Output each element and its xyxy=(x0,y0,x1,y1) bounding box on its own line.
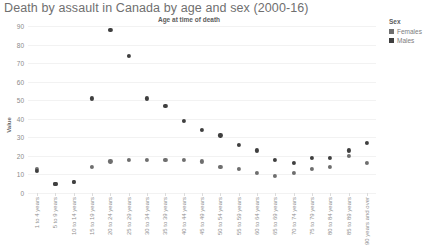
legend-swatch-icon xyxy=(389,38,394,43)
x-tick-label: 20 to 24 years xyxy=(107,197,113,235)
x-tick-label: 55 to 59 years xyxy=(236,197,242,235)
data-point[interactable] xyxy=(365,161,369,165)
chart-title: Death by assault in Canada by age and se… xyxy=(4,1,309,15)
data-point[interactable] xyxy=(108,159,112,163)
data-point[interactable] xyxy=(328,165,332,169)
x-tick-label: 15 to 19 years xyxy=(89,197,95,235)
x-tick-mark xyxy=(349,193,350,196)
x-tick-mark xyxy=(220,193,221,196)
gridline xyxy=(28,137,376,138)
x-tick-label: 45 to 49 years xyxy=(199,197,205,235)
data-point[interactable] xyxy=(291,161,295,165)
data-point[interactable] xyxy=(163,158,167,162)
data-point[interactable] xyxy=(200,128,204,132)
legend-label: Females xyxy=(397,28,422,35)
data-point[interactable] xyxy=(310,167,314,171)
x-tick-label: 75 to 79 years xyxy=(309,197,315,235)
x-tick-label: 80 to 84 years xyxy=(327,197,333,235)
data-point[interactable] xyxy=(273,158,277,162)
y-tick-label: 80 xyxy=(17,41,24,48)
gridline xyxy=(28,82,376,83)
x-tick-mark xyxy=(165,193,166,196)
x-tick-mark xyxy=(110,193,111,196)
data-point[interactable] xyxy=(273,174,277,178)
x-tick-mark xyxy=(239,193,240,196)
data-point[interactable] xyxy=(90,165,94,169)
x-tick-label: 85 to 89 years xyxy=(346,197,352,235)
x-tick-mark xyxy=(257,193,258,196)
x-tick-label: 40 to 44 years xyxy=(181,197,187,235)
data-point[interactable] xyxy=(182,119,186,123)
x-tick-label: 60 to 64 years xyxy=(254,197,260,235)
data-point[interactable] xyxy=(72,180,76,184)
y-tick-label: 10 xyxy=(17,171,24,178)
plot-area: 0102030405060708090 xyxy=(28,26,376,193)
data-point[interactable] xyxy=(237,143,241,147)
gridline xyxy=(28,156,376,157)
data-point[interactable] xyxy=(35,169,39,173)
x-tick-mark xyxy=(312,193,313,196)
data-point[interactable] xyxy=(310,156,314,160)
data-point[interactable] xyxy=(182,158,186,162)
legend-swatch-icon xyxy=(389,29,394,34)
gridline xyxy=(28,45,376,46)
y-tick-label: 70 xyxy=(17,60,24,67)
y-tick-label: 40 xyxy=(17,115,24,122)
legend-label: Males xyxy=(397,37,414,44)
x-tick-mark xyxy=(55,193,56,196)
chart-subtitle: Age at time of death xyxy=(28,16,350,23)
gridline xyxy=(28,63,376,64)
data-point[interactable] xyxy=(346,148,350,152)
legend-item-females[interactable]: Females xyxy=(389,28,430,35)
x-tick-mark xyxy=(92,193,93,196)
x-tick-label: 70 to 74 years xyxy=(291,197,297,235)
x-tick-mark xyxy=(275,193,276,196)
data-point[interactable] xyxy=(145,158,149,162)
data-point[interactable] xyxy=(237,167,241,171)
x-tick-label: 50 to 54 years xyxy=(217,197,223,235)
x-tick-label: 90 years and over xyxy=(364,197,370,245)
x-tick-mark xyxy=(294,193,295,196)
x-tick-mark xyxy=(129,193,130,196)
x-tick-label: 35 to 39 years xyxy=(162,197,168,235)
x-tick-label: 65 to 69 years xyxy=(272,197,278,235)
data-point[interactable] xyxy=(127,54,131,58)
x-tick-label: 25 to 29 years xyxy=(126,197,132,235)
x-tick-mark xyxy=(367,193,368,196)
y-tick-label: 90 xyxy=(17,23,24,30)
chart-container: Death by assault in Canada by age and se… xyxy=(0,0,430,250)
x-tick-mark xyxy=(184,193,185,196)
gridline xyxy=(28,26,376,27)
data-point[interactable] xyxy=(127,158,131,162)
x-tick-mark xyxy=(147,193,148,196)
y-tick-label: 50 xyxy=(17,97,24,104)
data-point[interactable] xyxy=(163,104,167,108)
y-tick-label: 60 xyxy=(17,78,24,85)
x-tick-label: 1 to 4 years xyxy=(34,197,40,228)
gridline xyxy=(28,174,376,175)
data-point[interactable] xyxy=(255,148,259,152)
x-tick-label: 30 to 34 years xyxy=(144,197,150,235)
y-tick-label: 0 xyxy=(20,190,24,197)
data-point[interactable] xyxy=(365,141,369,145)
x-tick-mark xyxy=(330,193,331,196)
gridline xyxy=(28,100,376,101)
x-tick-mark xyxy=(74,193,75,196)
data-point[interactable] xyxy=(53,182,57,186)
legend-item-males[interactable]: Males xyxy=(389,37,430,44)
data-point[interactable] xyxy=(200,159,204,163)
x-tick-mark xyxy=(202,193,203,196)
data-point[interactable] xyxy=(328,156,332,160)
y-axis-title: Value xyxy=(6,117,12,133)
data-point[interactable] xyxy=(218,165,222,169)
data-point[interactable] xyxy=(108,28,112,32)
gridline xyxy=(28,119,376,120)
x-tick-mark xyxy=(37,193,38,196)
y-tick-label: 20 xyxy=(17,152,24,159)
data-point[interactable] xyxy=(346,154,350,158)
x-tick-label: 5 to 9 years xyxy=(52,197,58,228)
x-axis: 1 to 4 years5 to 9 years10 to 14 years15… xyxy=(28,193,376,250)
y-tick-label: 30 xyxy=(17,134,24,141)
x-tick-label: 10 to 14 years xyxy=(71,197,77,235)
legend: Sex FemalesMales xyxy=(389,18,430,46)
